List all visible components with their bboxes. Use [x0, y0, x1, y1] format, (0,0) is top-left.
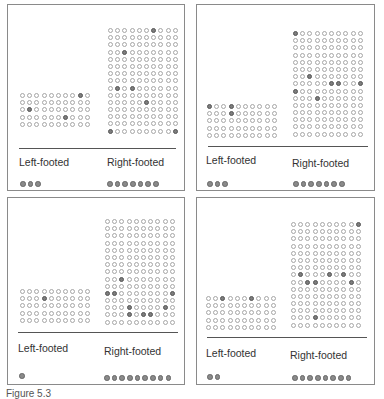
- empty-circle-icon: [265, 126, 270, 131]
- empty-circle-icon: [49, 311, 54, 316]
- empty-circle-icon: [137, 100, 142, 105]
- empty-circle-icon: [307, 132, 312, 137]
- empty-circle-icon: [264, 296, 269, 301]
- empty-circle-icon: [307, 117, 312, 122]
- empty-circle-icon: [307, 124, 312, 129]
- empty-circle-icon: [127, 262, 132, 267]
- empty-circle-icon: [336, 60, 341, 65]
- empty-circle-icon: [327, 323, 332, 328]
- tally-circle-icon: [104, 375, 110, 381]
- empty-circle-icon: [349, 258, 354, 263]
- empty-circle-icon: [115, 107, 120, 112]
- empty-circle-icon: [163, 226, 168, 231]
- empty-circle-icon: [137, 129, 142, 134]
- empty-circle-icon: [300, 132, 305, 137]
- empty-circle-icon: [130, 121, 135, 126]
- empty-circle-icon: [351, 117, 356, 122]
- empty-circle-icon: [115, 100, 120, 105]
- empty-circle-icon: [214, 118, 219, 123]
- empty-circle-icon: [27, 296, 32, 301]
- marked-circle-icon: [305, 280, 310, 285]
- empty-circle-icon: [155, 277, 160, 282]
- empty-circle-icon: [307, 38, 312, 43]
- empty-circle-icon: [70, 296, 75, 301]
- empty-circle-icon: [322, 60, 327, 65]
- empty-circle-icon: [341, 323, 346, 328]
- empty-circle-icon: [305, 251, 310, 256]
- empty-circle-icon: [163, 291, 168, 296]
- empty-circle-icon: [49, 122, 54, 127]
- divider: [208, 146, 368, 147]
- empty-circle-icon: [42, 93, 47, 98]
- empty-circle-icon: [214, 126, 219, 131]
- empty-circle-icon: [327, 308, 332, 313]
- empty-circle-icon: [151, 129, 156, 134]
- empty-circle-icon: [70, 122, 75, 127]
- empty-circle-icon: [112, 298, 117, 303]
- empty-circle-icon: [329, 117, 334, 122]
- empty-circle-icon: [349, 229, 354, 234]
- empty-circle-icon: [349, 265, 354, 270]
- empty-circle-icon: [249, 318, 254, 323]
- empty-circle-icon: [63, 289, 68, 294]
- empty-circle-icon: [115, 121, 120, 126]
- empty-circle-icon: [220, 318, 225, 323]
- empty-circle-icon: [151, 86, 156, 91]
- empty-circle-icon: [170, 277, 175, 282]
- empty-circle-icon: [356, 315, 361, 320]
- empty-circle-icon: [351, 81, 356, 86]
- empty-circle-icon: [327, 265, 332, 270]
- empty-circle-icon: [158, 78, 163, 83]
- empty-circle-icon: [63, 93, 68, 98]
- empty-circle-icon: [137, 71, 142, 76]
- empty-circle-icon: [313, 229, 318, 234]
- empty-circle-icon: [141, 262, 146, 267]
- empty-circle-icon: [334, 265, 339, 270]
- empty-circle-icon: [229, 126, 234, 131]
- empty-circle-icon: [272, 133, 277, 138]
- empty-circle-icon: [166, 93, 171, 98]
- empty-circle-icon: [320, 272, 325, 277]
- empty-circle-icon: [20, 100, 25, 105]
- empty-circle-icon: [166, 107, 171, 112]
- empty-circle-icon: [158, 71, 163, 76]
- empty-circle-icon: [137, 35, 142, 40]
- empty-circle-icon: [236, 111, 241, 116]
- empty-circle-icon: [170, 233, 175, 238]
- empty-circle-icon: [144, 121, 149, 126]
- empty-circle-icon: [141, 255, 146, 260]
- empty-circle-icon: [220, 310, 225, 315]
- empty-circle-icon: [298, 222, 303, 227]
- empty-circle-icon: [137, 121, 142, 126]
- empty-circle-icon: [307, 45, 312, 50]
- empty-circle-icon: [49, 107, 54, 112]
- empty-circle-icon: [322, 89, 327, 94]
- empty-circle-icon: [336, 110, 341, 115]
- empty-circle-icon: [329, 60, 334, 65]
- empty-circle-icon: [305, 272, 310, 277]
- empty-circle-icon: [119, 233, 124, 238]
- marked-circle-icon: [293, 89, 298, 94]
- empty-circle-icon: [158, 42, 163, 47]
- empty-circle-icon: [228, 310, 233, 315]
- empty-circle-icon: [235, 318, 240, 323]
- empty-circle-icon: [221, 118, 226, 123]
- empty-circle-icon: [155, 298, 160, 303]
- empty-circle-icon: [351, 110, 356, 115]
- empty-circle-icon: [34, 115, 39, 120]
- empty-circle-icon: [130, 93, 135, 98]
- empty-circle-icon: [108, 107, 113, 112]
- empty-circle-icon: [151, 64, 156, 69]
- empty-circle-icon: [122, 114, 127, 119]
- left-footed-label: Left-footed: [206, 154, 256, 166]
- empty-circle-icon: [27, 289, 32, 294]
- empty-circle-icon: [163, 277, 168, 282]
- empty-circle-icon: [127, 284, 132, 289]
- figure-caption: Figure 5.3: [6, 388, 51, 399]
- empty-circle-icon: [327, 236, 332, 241]
- empty-circle-icon: [173, 107, 178, 112]
- empty-circle-icon: [170, 248, 175, 253]
- empty-circle-icon: [329, 89, 334, 94]
- empty-circle-icon: [329, 96, 334, 101]
- empty-circle-icon: [334, 244, 339, 249]
